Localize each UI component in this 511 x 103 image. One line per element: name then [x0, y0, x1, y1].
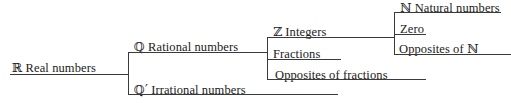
irrational-numbers-underline — [128, 94, 338, 95]
real-numbers-underline — [10, 74, 129, 75]
real-numbers-label: Real numbers — [26, 61, 96, 75]
zero-underline — [394, 34, 426, 35]
fractions-underline — [267, 59, 341, 60]
node-real-numbers: ℝReal numbers — [12, 61, 96, 75]
branch-bar-rational — [267, 37, 268, 79]
integers-underline — [267, 37, 395, 38]
opposites-of-natural-underline — [394, 54, 511, 55]
branch-bar-real — [128, 52, 129, 94]
real-numbers-symbol: ℝ — [12, 60, 23, 75]
natural-numbers-underline — [394, 12, 501, 13]
rational-numbers-underline — [128, 52, 268, 53]
branch-bar-integers — [394, 12, 395, 54]
opposites-of-fractions-underline — [267, 79, 426, 80]
number-classification-diagram: ℝReal numbers ℚRational numbers ℚ′Irrati… — [0, 0, 511, 103]
